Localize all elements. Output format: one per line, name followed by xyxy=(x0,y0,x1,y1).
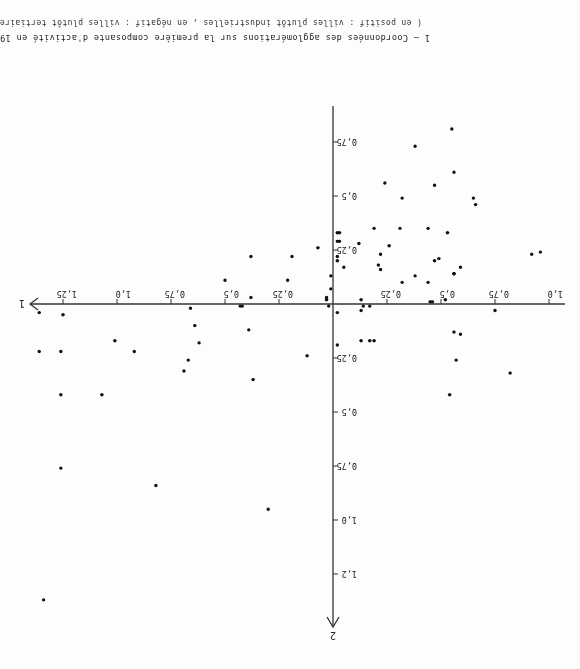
data-point xyxy=(448,393,451,396)
data-point xyxy=(336,343,339,346)
data-point xyxy=(113,339,116,342)
data-point xyxy=(452,330,455,333)
data-point xyxy=(400,281,403,284)
data-point xyxy=(241,304,244,307)
data-point xyxy=(338,231,341,234)
chart-title: 1 – Coordonnées des agglomérations sur l… xyxy=(0,33,430,43)
data-point xyxy=(459,266,462,269)
y-tick-label: 0,75 xyxy=(337,461,357,471)
data-point xyxy=(446,231,449,234)
chart-subtitle: ( en positif : villes plutôt industriell… xyxy=(0,18,422,27)
data-point xyxy=(187,358,190,361)
x-axis-label: 1 xyxy=(19,298,25,309)
data-point xyxy=(38,311,41,314)
data-point xyxy=(193,324,196,327)
data-point xyxy=(42,598,45,601)
data-point xyxy=(472,196,475,199)
data-point xyxy=(154,484,157,487)
data-point xyxy=(359,339,362,342)
data-point xyxy=(286,279,289,282)
data-point xyxy=(342,266,345,269)
x-tick-label: 0,25 xyxy=(381,289,401,299)
data-point xyxy=(431,300,434,303)
y-tick-label: 0,25 xyxy=(337,353,357,363)
data-point xyxy=(377,263,380,266)
data-point xyxy=(189,307,192,310)
data-point xyxy=(329,287,332,290)
x-tick-label: 0,5 xyxy=(224,289,239,299)
x-tick-label: 0,75 xyxy=(489,289,509,299)
data-point xyxy=(336,311,339,314)
data-point xyxy=(530,253,533,256)
x-tick-label: 0,25 xyxy=(273,289,293,299)
data-point xyxy=(249,255,252,258)
data-point xyxy=(413,145,416,148)
data-point xyxy=(383,181,386,184)
data-point xyxy=(433,259,436,262)
axis-ticks: 0,250,50,751,01,250,250,50,751,00,250,50… xyxy=(57,137,563,579)
data-point xyxy=(59,350,62,353)
x-tick-label: 1,0 xyxy=(548,289,563,299)
data-point xyxy=(459,333,462,336)
data-point xyxy=(493,309,496,312)
data-point xyxy=(372,339,375,342)
data-point xyxy=(400,196,403,199)
data-point xyxy=(426,227,429,230)
data-point xyxy=(474,203,477,206)
data-point xyxy=(100,393,103,396)
y-tick-label: 0,5 xyxy=(342,191,357,201)
data-point xyxy=(336,255,339,258)
data-point xyxy=(59,466,62,469)
data-points xyxy=(38,127,543,601)
data-point xyxy=(508,371,511,374)
x-tick-label: 0,75 xyxy=(165,289,185,299)
data-point xyxy=(327,304,330,307)
scatter-plot: 12 0,250,50,751,01,250,250,50,751,00,250… xyxy=(0,0,580,669)
y-axis-label: 2 xyxy=(330,630,336,641)
data-point xyxy=(38,350,41,353)
data-point xyxy=(387,244,390,247)
data-point xyxy=(357,242,360,245)
data-point xyxy=(413,274,416,277)
data-point xyxy=(454,358,457,361)
data-point xyxy=(247,328,250,331)
data-point xyxy=(444,298,447,301)
data-point xyxy=(61,313,64,316)
data-point xyxy=(379,268,382,271)
y-tick-label: 1,2 xyxy=(342,569,357,579)
data-point xyxy=(182,369,185,372)
data-point xyxy=(329,274,332,277)
data-point xyxy=(437,257,440,260)
data-point xyxy=(362,304,365,307)
data-point xyxy=(325,298,328,301)
y-tick-label: 0,25 xyxy=(337,245,357,255)
data-point xyxy=(305,354,308,357)
data-point xyxy=(316,246,319,249)
data-point xyxy=(372,227,375,230)
data-point xyxy=(197,341,200,344)
data-point xyxy=(433,184,436,187)
data-point xyxy=(368,304,371,307)
data-point xyxy=(249,296,252,299)
data-point xyxy=(450,127,453,130)
data-point xyxy=(290,255,293,258)
data-point xyxy=(398,227,401,230)
data-point xyxy=(359,309,362,312)
rotated-figure: 12 0,250,50,751,01,250,250,50,751,00,250… xyxy=(0,0,580,669)
data-point xyxy=(379,253,382,256)
axes: 12 xyxy=(19,106,565,641)
data-point xyxy=(267,508,270,511)
y-tick-label: 0,75 xyxy=(337,137,357,147)
data-point xyxy=(223,279,226,282)
data-point xyxy=(426,281,429,284)
data-point xyxy=(133,350,136,353)
data-point xyxy=(539,250,542,253)
x-tick-label: 1,25 xyxy=(57,289,77,299)
data-point xyxy=(452,171,455,174)
data-point xyxy=(251,378,254,381)
y-tick-label: 0,5 xyxy=(342,407,357,417)
y-tick-label: 1,0 xyxy=(342,515,357,525)
data-point xyxy=(368,339,371,342)
data-point xyxy=(359,298,362,301)
data-point xyxy=(59,393,62,396)
